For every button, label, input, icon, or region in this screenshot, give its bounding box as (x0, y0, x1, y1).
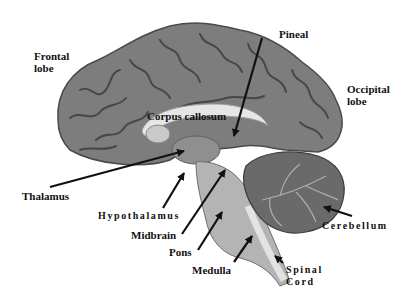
thalamus-region (172, 136, 220, 164)
label-thalamus: Thalamus (22, 190, 69, 202)
label-medulla: Medulla (192, 264, 231, 276)
label-frontal-line2: lobe (34, 62, 69, 74)
label-frontal-lobe: Frontal lobe (34, 50, 69, 74)
brain-illustration (0, 0, 405, 305)
label-pineal: Pineal (279, 28, 308, 40)
label-occipital-line2: lobe (347, 95, 390, 107)
label-occipital-line1: Occipital (347, 83, 390, 95)
label-frontal-line1: Frontal (34, 50, 69, 62)
brain-diagram: Frontal lobe Pineal Occipital lobe Corpu… (0, 0, 405, 305)
label-cerebellum: Cerebellum (322, 220, 388, 232)
label-occipital-lobe: Occipital lobe (347, 83, 390, 107)
label-pons: Pons (169, 246, 192, 258)
label-spinal-line2: Cord (286, 276, 323, 288)
label-spinal-line1: Spinal (286, 264, 323, 276)
label-midbrain: Midbrain (131, 229, 176, 241)
label-corpus-callosum: Corpus callosum (147, 110, 226, 122)
label-hypothalamus: Hypothalamus (98, 210, 180, 222)
label-spinal-cord: Spinal Cord (286, 264, 323, 288)
